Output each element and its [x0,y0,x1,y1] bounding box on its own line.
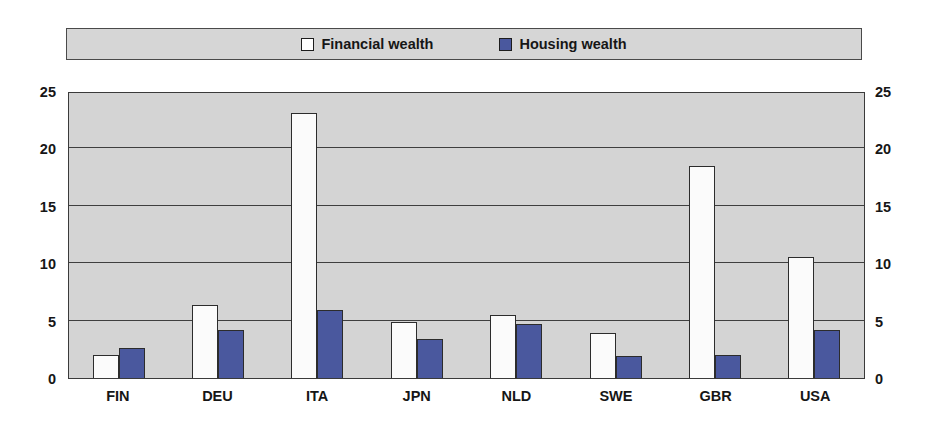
x-tick-gbr: GBR [688,388,744,404]
bar-group-fin [93,93,145,378]
bar-gbr-housing-wealth [715,355,741,378]
y-tick-right-0: 0 [875,372,915,387]
legend-item-housing-wealth: Housing wealth [499,36,626,52]
bar-usa-financial-wealth [788,257,814,378]
x-tick-usa: USA [787,388,843,404]
legend-swatch-financial-wealth-icon [301,38,314,51]
legend-label-financial-wealth: Financial wealth [321,36,433,52]
x-tick-fin: FIN [90,388,146,404]
bar-deu-financial-wealth [192,305,218,378]
bar-usa-housing-wealth [814,330,840,378]
bar-jpn-housing-wealth [417,339,443,378]
bar-group-gbr [689,93,741,378]
x-tick-ita: ITA [289,388,345,404]
x-axis-labels: FINDEUITAJPNNLDSWEGBRUSA [68,388,865,404]
x-tick-deu: DEU [189,388,245,404]
y-tick-right-25: 25 [875,85,915,100]
bar-group-deu [192,93,244,378]
x-tick-nld: NLD [488,388,544,404]
chart-bars-layer [69,93,864,378]
y-tick-left-10: 10 [16,257,56,272]
legend-item-financial-wealth: Financial wealth [301,36,433,52]
bar-swe-housing-wealth [616,356,642,378]
bar-fin-housing-wealth [119,348,145,378]
bar-fin-financial-wealth [93,355,119,378]
y-tick-right-15: 15 [875,200,915,215]
bar-group-swe [590,93,642,378]
bar-deu-housing-wealth [218,330,244,378]
y-tick-left-0: 0 [16,372,56,387]
legend-label-housing-wealth: Housing wealth [519,36,626,52]
bar-group-ita [291,93,343,378]
bar-swe-financial-wealth [590,333,616,378]
bar-nld-financial-wealth [490,315,516,378]
y-tick-right-20: 20 [875,142,915,157]
y-tick-right-5: 5 [875,315,915,330]
bar-gbr-financial-wealth [689,166,715,378]
bar-ita-financial-wealth [291,113,317,378]
y-tick-left-15: 15 [16,200,56,215]
x-tick-jpn: JPN [389,388,445,404]
bar-jpn-financial-wealth [391,322,417,378]
bar-group-usa [788,93,840,378]
bar-group-jpn [391,93,443,378]
y-tick-left-20: 20 [16,142,56,157]
y-tick-right-10: 10 [875,257,915,272]
legend-swatch-housing-wealth-icon [499,38,512,51]
bar-nld-housing-wealth [516,324,542,378]
bar-ita-housing-wealth [317,310,343,378]
x-tick-swe: SWE [588,388,644,404]
y-tick-left-5: 5 [16,315,56,330]
y-tick-left-25: 25 [16,85,56,100]
chart-legend: Financial wealth Housing wealth [66,28,862,60]
bar-group-nld [490,93,542,378]
chart-plot-area [68,92,865,379]
